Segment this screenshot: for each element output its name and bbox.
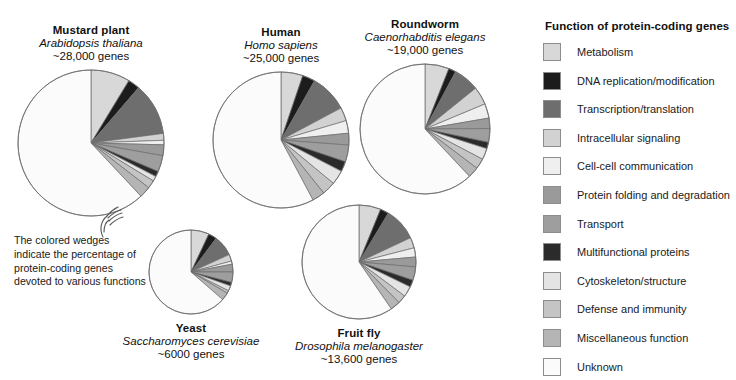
pie-common-name: Roundworm <box>340 18 510 31</box>
legend-item-label: Transcription/translation <box>577 103 694 115</box>
pie-gene-count: ~19,000 genes <box>340 44 510 57</box>
pie-caption-roundworm: RoundwormCaenorhabditis elegans~19,000 g… <box>340 18 510 60</box>
legend-swatch <box>543 100 561 118</box>
legend-item-label: DNA replication/modification <box>577 75 715 87</box>
legend-item: Metabolism <box>543 43 733 61</box>
legend: Function of protein-coding genes Metabol… <box>543 20 733 380</box>
annotation-text: The colored wedges indicate the percenta… <box>14 234 146 289</box>
pie-gene-count: ~13,600 genes <box>274 353 444 366</box>
pie-gene-count: ~6000 genes <box>106 348 276 361</box>
legend-item-label: Multifunctional proteins <box>577 246 690 258</box>
legend-swatch <box>543 157 561 175</box>
pie-common-name: Yeast <box>106 322 276 335</box>
legend-swatch <box>543 300 561 318</box>
legend-item-label: Unknown <box>577 361 623 373</box>
pie-scientific-name: Drosophila melanogaster <box>274 340 444 353</box>
pie-svg-roundworm <box>356 60 494 198</box>
pie-caption-mustard-plant: Mustard plantArabidopsis thaliana~28,000… <box>6 24 176 66</box>
pie-caption-yeast: YeastSaccharomyces cerevisiae~6000 genes <box>106 322 276 361</box>
legend-item: Transcription/translation <box>543 100 733 118</box>
pie-svg-yeast <box>145 226 237 318</box>
legend-item-label: Metabolism <box>577 46 633 58</box>
legend-item-label: Transport <box>577 218 624 230</box>
legend-item: Unknown <box>543 358 733 376</box>
legend-item: Defense and immunity <box>543 300 733 318</box>
pie-chart-fruit-fly: Fruit flyDrosophila melanogaster~13,600 … <box>298 201 420 366</box>
legend-item: Miscellaneous function <box>543 329 733 347</box>
pie-svg-human <box>209 68 353 212</box>
legend-item: Cell-cell communication <box>543 157 733 175</box>
pie-svg-fruit-fly <box>298 201 420 323</box>
legend-item: DNA replication/modification <box>543 72 733 90</box>
legend-title: Function of protein-coding genes <box>545 20 733 32</box>
legend-item: Intracellular signaling <box>543 129 733 147</box>
legend-swatch <box>543 358 561 376</box>
legend-swatch <box>543 215 561 233</box>
pie-chart-roundworm: RoundwormCaenorhabditis elegans~19,000 g… <box>356 18 494 198</box>
pie-chart-human: HumanHomo sapiens~25,000 genes <box>209 26 353 212</box>
legend-item-label: Defense and immunity <box>577 303 686 315</box>
pie-chart-mustard-plant: Mustard plantArabidopsis thaliana~28,000… <box>14 24 168 220</box>
legend-swatch <box>543 43 561 61</box>
pie-chart-yeast: YeastSaccharomyces cerevisiae~6000 genes <box>145 226 237 361</box>
legend-swatch <box>543 329 561 347</box>
pie-scientific-name: Caenorhabditis elegans <box>340 31 510 44</box>
legend-item-list: MetabolismDNA replication/modificationTr… <box>543 43 733 376</box>
pie-caption-fruit-fly: Fruit flyDrosophila melanogaster~13,600 … <box>274 327 444 366</box>
legend-swatch <box>543 243 561 261</box>
legend-swatch <box>543 129 561 147</box>
legend-swatch <box>543 272 561 290</box>
legend-item: Protein folding and degradation <box>543 186 733 204</box>
legend-item-label: Miscellaneous function <box>577 332 688 344</box>
pie-common-name: Fruit fly <box>274 327 444 340</box>
legend-swatch <box>543 186 561 204</box>
legend-swatch <box>543 72 561 90</box>
pie-scientific-name: Saccharomyces cerevisiae <box>106 335 276 348</box>
legend-item-label: Intracellular signaling <box>577 132 680 144</box>
legend-item: Multifunctional proteins <box>543 243 733 261</box>
legend-item: Cytoskeleton/structure <box>543 272 733 290</box>
pie-common-name: Mustard plant <box>6 24 176 37</box>
legend-item-label: Protein folding and degradation <box>577 189 730 201</box>
legend-item-label: Cell-cell communication <box>577 160 693 172</box>
legend-item-label: Cytoskeleton/structure <box>577 275 686 287</box>
pie-gene-count: ~28,000 genes <box>6 50 176 63</box>
legend-item: Transport <box>543 215 733 233</box>
pie-scientific-name: Arabidopsis thaliana <box>6 37 176 50</box>
